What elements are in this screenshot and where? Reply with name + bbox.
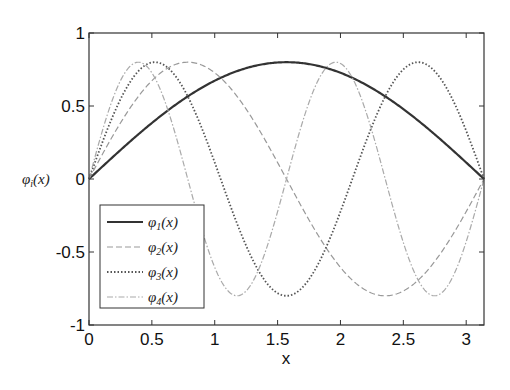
x-tick-label: 2: [336, 330, 345, 349]
y-tick-label: 1: [76, 24, 85, 43]
legend: φ1(x)φ2(x)φ3(x)φ4(x): [100, 205, 204, 308]
legend-label-phi2: φ2(x): [148, 239, 178, 257]
y-tick-label: -0.5: [56, 243, 85, 262]
x-tick-label: 3: [461, 330, 470, 349]
legend-label-phi3: φ3(x): [148, 264, 178, 282]
line-chart: 00.511.522.53-1-0.500.51 x φi(x) φ1(x)φ2…: [0, 0, 510, 390]
x-tick-label: 1: [210, 330, 219, 349]
legend-label-phi1: φ1(x): [148, 214, 178, 232]
x-axis-label: x: [282, 349, 291, 368]
x-tick-label: 0.5: [140, 330, 164, 349]
x-tick-label: 1.5: [266, 330, 290, 349]
y-tick-label: -1: [70, 316, 85, 335]
series-line-phi1: [89, 62, 484, 179]
legend-label-phi4: φ4(x): [148, 289, 178, 307]
y-tick-label: 0.5: [61, 97, 85, 116]
y-axis-label: φi(x): [22, 171, 50, 189]
x-tick-label: 2.5: [392, 330, 416, 349]
x-tick-label: 0: [84, 330, 93, 349]
y-tick-label: 0: [76, 170, 85, 189]
